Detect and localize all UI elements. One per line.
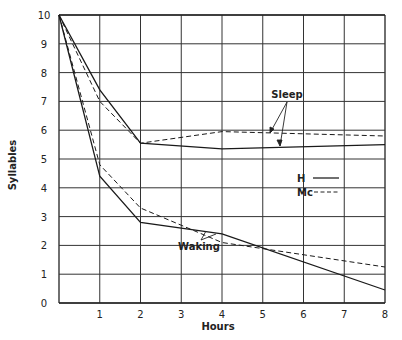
- x-axis-label: Hours: [201, 321, 234, 332]
- y-tick-label: 0: [41, 298, 47, 309]
- y-tick-label: 1: [41, 269, 47, 280]
- x-tick-label: 3: [178, 309, 184, 320]
- legend-h-label: H: [297, 173, 305, 184]
- y-tick-label: 3: [41, 212, 47, 223]
- x-tick-label: 5: [260, 309, 266, 320]
- x-tick-label: 7: [341, 309, 347, 320]
- y-tick-label: 6: [41, 125, 47, 136]
- sleep-annotation: Sleep: [271, 89, 302, 100]
- y-tick-label: 7: [41, 96, 47, 107]
- y-tick-label: 5: [41, 154, 47, 165]
- legend-mc-label: Mc: [297, 187, 313, 198]
- x-tick-label: 8: [382, 309, 388, 320]
- y-tick-label: 9: [41, 39, 47, 50]
- x-axis-ticks: 12345678: [97, 309, 389, 320]
- x-tick-label: 6: [300, 309, 306, 320]
- x-tick-label: 1: [97, 309, 103, 320]
- y-tick-label: 4: [41, 183, 47, 194]
- y-tick-label: 8: [41, 68, 47, 79]
- waking-annotation: Waking: [178, 241, 220, 252]
- x-tick-label: 4: [219, 309, 225, 320]
- sleep-arrows: [270, 102, 287, 146]
- x-tick-label: 2: [137, 309, 143, 320]
- y-axis-label: Syllables: [7, 140, 18, 191]
- y-tick-label: 10: [38, 10, 51, 21]
- y-tick-label: 2: [41, 240, 47, 251]
- line-chart: 012345678910 12345678 Hours Syllables Sl…: [0, 0, 402, 340]
- y-axis-ticks: 012345678910: [38, 10, 51, 309]
